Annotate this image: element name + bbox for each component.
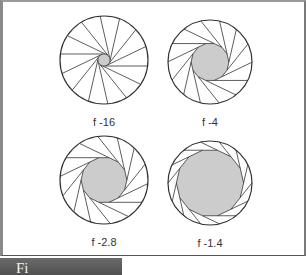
aperture-f16: [58, 14, 150, 106]
aperture-label-f4: f -4: [160, 116, 260, 128]
figure-caption-bar: Fi: [0, 258, 122, 275]
aperture-f2-8: [58, 134, 150, 226]
diagram-frame: f -16 f -4 f -2.8 f -1.4: [0, 0, 306, 256]
aperture-label-f2-8: f -2.8: [54, 236, 154, 248]
aperture-label-f1-4: f -1.4: [160, 237, 260, 249]
aperture-f1-4: [166, 139, 254, 227]
aperture-f4: [166, 18, 254, 106]
aperture-label-f16: f -16: [54, 116, 154, 128]
